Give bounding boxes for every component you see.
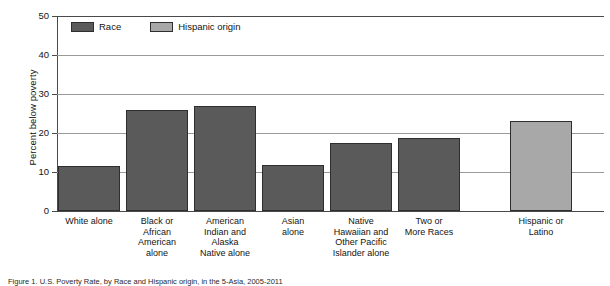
x-tick-label-line: Hispanic or: [486, 216, 596, 227]
legend-entry-race: Race: [71, 21, 121, 32]
bar-4: [330, 143, 392, 211]
legend-swatch-race: [71, 22, 94, 32]
x-tick-label-line: Native alone: [170, 248, 280, 259]
y-tick-label-0: 0: [0, 205, 49, 216]
x-tick-label-6: Hispanic orLatino: [486, 216, 596, 237]
gridline-30: [57, 94, 604, 95]
x-axis-line: [57, 211, 604, 212]
x-tick-label-line: Other Pacific: [306, 237, 416, 248]
gridline-50: [57, 16, 604, 17]
x-tick-label-line: Alaska: [170, 237, 280, 248]
y-tick-label-50: 50: [0, 10, 49, 21]
figure-caption: Figure 1. U.S. Poverty Rate, by Race and…: [8, 277, 602, 286]
bar-2: [194, 106, 256, 211]
poverty-rate-bar-chart: Percent below poverty 01020304050 Race H…: [0, 0, 610, 286]
bar-0: [58, 166, 120, 211]
y-tick-label-40: 40: [0, 49, 49, 60]
x-tick-label-5: Two orMore Races: [374, 216, 484, 237]
gridline-40: [57, 55, 604, 56]
legend-label-race: Race: [99, 21, 121, 32]
bar-6: [510, 121, 572, 212]
x-tick-label-line: Latino: [486, 227, 596, 238]
legend: Race Hispanic origin: [71, 21, 263, 32]
x-tick-label-line: Two or: [374, 216, 484, 227]
x-tick-label-line: Islander alone: [306, 248, 416, 259]
x-tick-label-line: More Races: [374, 227, 484, 238]
plot-area: Race Hispanic origin: [57, 16, 604, 211]
legend-entry-hispanic-origin: Hispanic origin: [150, 21, 240, 32]
y-tick-label-30: 30: [0, 88, 49, 99]
bar-1: [126, 110, 188, 211]
bar-5: [398, 138, 460, 211]
legend-label-hispanic-origin: Hispanic origin: [178, 21, 240, 32]
y-tick-label-20: 20: [0, 127, 49, 138]
y-tick-label-10: 10: [0, 166, 49, 177]
bar-3: [262, 165, 324, 211]
legend-swatch-hispanic-origin: [150, 22, 173, 32]
